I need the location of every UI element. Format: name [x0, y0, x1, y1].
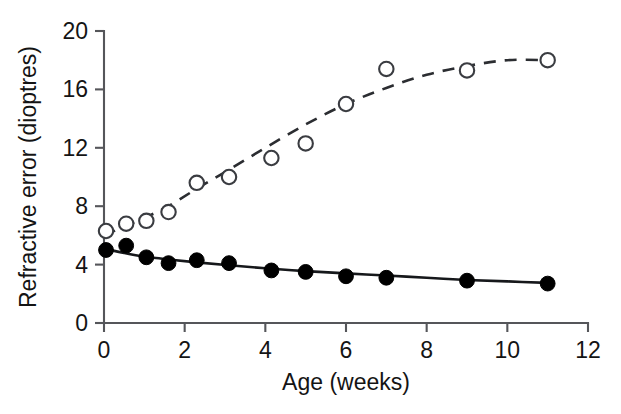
- y-tick-label: 20: [62, 18, 88, 44]
- y-tick-label: 8: [75, 193, 88, 219]
- data-point-filled-circle: [460, 273, 475, 288]
- figure-container: 048121620 024681012 Age (weeks) Refracti…: [0, 0, 621, 414]
- data-point-open-circle: [379, 62, 393, 76]
- x-tick-label: 10: [495, 337, 521, 363]
- data-point-open-circle: [139, 214, 153, 228]
- data-point-filled-circle: [222, 256, 237, 271]
- x-axis-tick-labels: 024681012: [98, 337, 601, 363]
- x-tick-label: 8: [420, 337, 433, 363]
- open-circle-data-points: [99, 53, 555, 238]
- x-tick-label: 2: [178, 337, 191, 363]
- data-point-open-circle: [298, 136, 312, 150]
- y-axis-title: Refractive error (dioptres): [15, 46, 41, 308]
- data-point-open-circle: [190, 176, 204, 190]
- data-point-filled-circle: [161, 256, 176, 271]
- data-point-filled-circle: [264, 263, 279, 278]
- x-axis-title: Age (weeks): [282, 369, 410, 395]
- data-point-filled-circle: [99, 243, 114, 258]
- data-point-filled-circle: [540, 276, 555, 291]
- data-point-open-circle: [460, 63, 474, 77]
- y-axis-ticks: [95, 31, 104, 323]
- data-point-filled-circle: [189, 253, 204, 268]
- data-point-open-circle: [119, 217, 133, 231]
- data-point-open-circle: [99, 224, 113, 238]
- data-point-filled-circle: [119, 238, 134, 253]
- y-tick-label: 12: [62, 135, 88, 161]
- x-axis-ticks: [104, 323, 588, 332]
- data-point-filled-circle: [379, 270, 394, 285]
- x-tick-label: 0: [98, 337, 111, 363]
- x-tick-label: 6: [340, 337, 353, 363]
- data-point-open-circle: [161, 205, 175, 219]
- y-tick-label: 0: [75, 310, 88, 336]
- y-tick-label: 16: [62, 76, 88, 102]
- data-point-open-circle: [339, 97, 353, 111]
- filled-circle-data-points: [99, 238, 555, 291]
- data-point-open-circle: [540, 53, 554, 67]
- data-point-filled-circle: [139, 250, 154, 265]
- y-tick-label: 4: [75, 252, 88, 278]
- x-tick-label: 12: [575, 337, 601, 363]
- refractive-error-scatter-chart: 048121620 024681012 Age (weeks) Refracti…: [0, 0, 621, 414]
- data-point-open-circle: [222, 170, 236, 184]
- x-tick-label: 4: [259, 337, 272, 363]
- y-axis-tick-labels: 048121620: [62, 18, 88, 336]
- data-point-filled-circle: [298, 265, 313, 280]
- data-point-open-circle: [264, 151, 278, 165]
- data-point-filled-circle: [339, 269, 354, 284]
